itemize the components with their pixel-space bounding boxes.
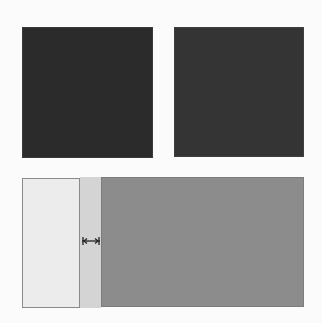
- dark-square-left: [22, 27, 153, 158]
- right-pane: [101, 177, 304, 307]
- left-pane: [22, 178, 80, 308]
- resize-horizontal-icon[interactable]: [80, 236, 102, 246]
- dark-square-right: [174, 27, 304, 157]
